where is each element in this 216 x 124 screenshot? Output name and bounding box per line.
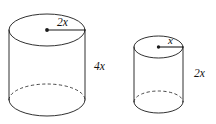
geometry-figure: 2x 4x x 2x	[0, 0, 216, 124]
small-cylinder-center-dot	[157, 45, 160, 48]
small-cylinder-height-label: 2x	[194, 67, 206, 79]
small-cylinder: x 2x	[134, 34, 206, 113]
large-cylinder-radius-label: 2x	[57, 16, 69, 28]
small-cylinder-bottom-hidden-arc	[134, 91, 183, 102]
small-cylinder-bottom-visible-arc	[134, 102, 183, 113]
large-cylinder-bottom-visible-arc	[9, 100, 85, 116]
large-cylinder-center-dot	[45, 28, 49, 32]
large-cylinder-bottom-hidden-arc	[9, 84, 85, 100]
large-cylinder-height-label: 4x	[94, 60, 106, 72]
figure-canvas: 2x 4x x 2x	[0, 0, 216, 124]
small-cylinder-radius-label: x	[167, 34, 173, 46]
large-cylinder: 2x 4x	[9, 14, 106, 116]
